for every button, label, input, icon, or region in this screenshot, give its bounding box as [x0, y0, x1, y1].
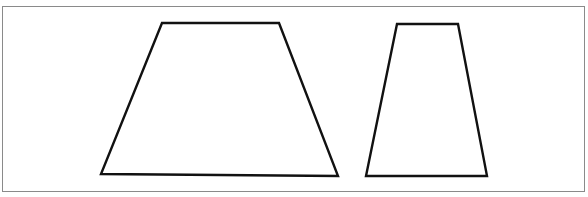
trapezoid-wide — [101, 23, 338, 176]
diagram-canvas — [0, 0, 588, 197]
trapezoid-narrow — [366, 24, 487, 176]
